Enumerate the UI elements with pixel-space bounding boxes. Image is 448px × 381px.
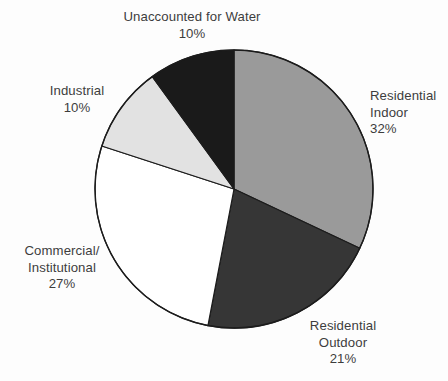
slice-label-industrial-name: Industrial xyxy=(22,83,132,100)
slice-label-residential-outdoor: Residential Outdoor 21% xyxy=(300,318,386,368)
slice-label-commercial-name-line2: Institutional xyxy=(4,260,120,277)
slice-label-outdoor-value: 21% xyxy=(300,351,386,368)
pie-chart-page: Unaccounted for Water 10% Industrial 10%… xyxy=(0,0,448,381)
slice-label-commercial-value: 27% xyxy=(4,276,120,293)
slice-label-industrial: Industrial 10% xyxy=(22,83,132,116)
slice-label-unaccounted-for-water: Unaccounted for Water 10% xyxy=(104,9,280,42)
slice-label-industrial-value: 10% xyxy=(22,100,132,117)
slice-label-outdoor-name-line1: Residential xyxy=(300,318,386,335)
pie-slice-group xyxy=(95,50,373,328)
slice-label-indoor-value: 32% xyxy=(370,121,448,138)
slice-label-commercial-name-line1: Commercial/ xyxy=(4,243,120,260)
slice-label-commercial-institutional: Commercial/ Institutional 27% xyxy=(4,243,120,293)
slice-label-residential-indoor: Residential Indoor 32% xyxy=(370,88,448,138)
slice-label-indoor-name-line1: Residential xyxy=(370,88,448,105)
slice-label-outdoor-name-line2: Outdoor xyxy=(300,335,386,352)
slice-label-unaccounted-value: 10% xyxy=(104,26,280,43)
slice-label-indoor-name-line2: Indoor xyxy=(370,105,448,122)
slice-label-unaccounted-name: Unaccounted for Water xyxy=(104,9,280,26)
